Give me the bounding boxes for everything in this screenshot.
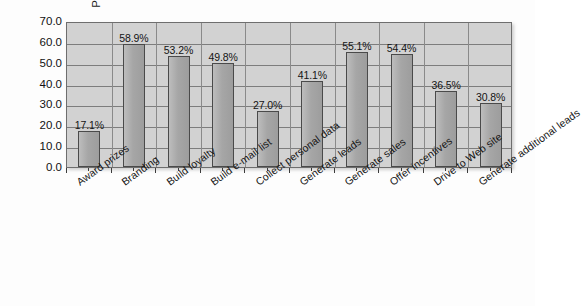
x-axis-category-label: Branding (119, 153, 161, 188)
x-axis-category-label: Build loyalty (164, 144, 217, 187)
